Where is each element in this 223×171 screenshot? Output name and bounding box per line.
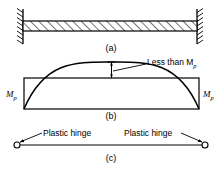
right-plastic-hinge-icon (202, 142, 208, 148)
midspan-note-text: Less than M (147, 57, 193, 67)
right-fixed-support (197, 9, 203, 45)
panel-b-label: (b) (106, 111, 117, 121)
panel-c-group: Plastic hinge Plastic hinge (c) (14, 128, 208, 163)
left-moment-subscript: p (13, 94, 18, 101)
figure-container: (a) Less than Mp Mp (0, 0, 223, 171)
panel-b-group: Less than Mp Mp Mp (b) (5, 57, 215, 121)
engineering-figure: (a) Less than Mp Mp (0, 0, 223, 171)
panel-a-label: (a) (106, 43, 117, 53)
midspan-note-leader (113, 64, 146, 71)
midspan-dimension-arrow (107, 62, 116, 78)
left-plastic-moment-label: Mp (5, 89, 18, 101)
midspan-note-subscript: p (192, 62, 197, 69)
right-hinge-leader (181, 133, 202, 142)
panel-c-label: (c) (106, 153, 117, 163)
right-plastic-moment-label: Mp (202, 89, 215, 101)
left-hinge-leader (20, 133, 42, 142)
panel-a-group: (a) (17, 9, 203, 54)
right-moment-subscript: p (210, 94, 215, 101)
left-fixed-support (17, 9, 23, 45)
midspan-moment-note: Less than Mp (147, 57, 197, 69)
left-plastic-hinge-icon (14, 142, 20, 148)
right-hinge-label: Plastic hinge (124, 128, 172, 138)
beam-member (23, 21, 197, 31)
left-hinge-label: Plastic hinge (43, 128, 91, 138)
moment-baseline-box (24, 78, 199, 109)
